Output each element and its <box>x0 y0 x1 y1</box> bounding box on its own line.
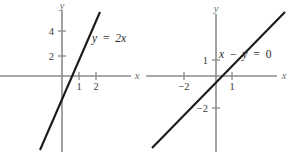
right-ytick-label-neg2: −2 <box>197 103 208 114</box>
left-y-axis-label: y <box>59 0 65 11</box>
chart-panel-left: 1 2 2 4 x y y = 2x <box>0 0 146 156</box>
right-ytick-label-1: 1 <box>203 55 208 66</box>
right-eq-rhs: 0 <box>266 48 272 60</box>
right-y-axis-label: y <box>213 3 219 14</box>
right-eq-var2: y <box>241 48 248 61</box>
left-eq-lhs: y <box>91 32 98 45</box>
right-eq-minus: − <box>230 48 237 60</box>
right-equation-label: x − y = 0 <box>218 48 272 61</box>
right-x-axis-label: x <box>281 70 287 81</box>
left-x-axis-label: x <box>134 70 140 81</box>
right-xtick-label-1: 1 <box>229 81 234 92</box>
right-chart-svg: −2 1 1 −2 x y x − y = 0 <box>146 0 292 156</box>
left-equation-label: y = 2x <box>91 32 127 45</box>
left-xtick-label-1: 1 <box>76 81 81 92</box>
right-graph-line <box>152 12 285 148</box>
figure-container: 1 2 2 4 x y y = 2x <box>0 0 292 156</box>
left-ytick-label-2: 2 <box>49 51 54 62</box>
left-eq-rhs: 2x <box>115 32 127 44</box>
left-chart-svg: 1 2 2 4 x y y = 2x <box>0 0 146 156</box>
left-ytick-label-4: 4 <box>49 26 55 37</box>
left-xtick-label-2: 2 <box>93 81 98 92</box>
chart-panel-right: −2 1 1 −2 x y x − y = 0 <box>146 0 292 156</box>
right-xtick-label-neg2: −2 <box>178 81 189 92</box>
left-eq-operator: = <box>103 32 110 44</box>
right-eq-var1: x <box>218 48 225 60</box>
right-eq-operator: = <box>253 48 260 60</box>
